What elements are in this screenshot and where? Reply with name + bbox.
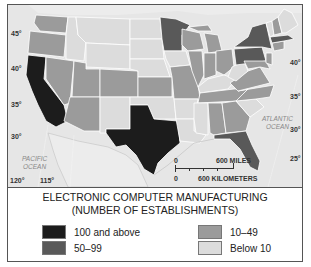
state-mt — [76, 17, 130, 45]
legend-item-100-plus: 100 and above — [42, 224, 140, 240]
scale-tick — [189, 168, 190, 171]
scale-bar-line — [175, 168, 234, 169]
legend-swatch — [42, 241, 66, 255]
legend-label: 100 and above — [74, 227, 140, 238]
lat-label-right-35: 35° — [290, 93, 301, 100]
lon-label-120: 120° — [10, 177, 24, 184]
legend-item-50-99: 50–99 — [42, 240, 102, 256]
legend-item-10-49: 10–49 — [198, 224, 258, 240]
scale-tick — [175, 165, 176, 172]
legend-label: Below 10 — [230, 243, 271, 254]
map-figure: 45° 40° 35° 30° 40° 35° 30° 25° 120° 115… — [7, 4, 303, 262]
scale-km-zero: 0 — [174, 175, 178, 182]
lon-label-115: 115° — [40, 177, 54, 184]
scale-tick — [203, 168, 204, 171]
state-nj — [266, 53, 272, 65]
us-choropleth-map: 45° 40° 35° 30° 40° 35° 30° 25° 120° 115… — [8, 5, 302, 188]
lat-label-40: 40° — [11, 65, 22, 72]
state-wy — [86, 43, 130, 69]
state-co — [100, 69, 138, 97]
legend-swatch — [198, 241, 222, 255]
state-wa — [34, 15, 68, 33]
legend-subtitle: (NUMBER OF ESTABLISHMENTS) — [8, 204, 302, 217]
legend-label: 50–99 — [74, 243, 102, 254]
lat-label-right-25: 25° — [290, 155, 301, 162]
scale-km-label: 600 KILOMETERS — [198, 175, 258, 182]
state-ks — [138, 77, 172, 97]
legend-label: 10–49 — [230, 227, 258, 238]
state-or — [28, 31, 66, 57]
state-ms — [194, 103, 208, 135]
scale-miles-zero: 0 — [174, 157, 178, 164]
scale-tick — [217, 168, 218, 171]
lat-label-35: 35° — [11, 101, 22, 108]
legend-title: ELECTRONIC COMPUTER MANUFACTURING — [8, 191, 302, 204]
lat-label-right-40: 40° — [290, 59, 301, 66]
state-nm — [100, 97, 130, 133]
atlantic-ocean-label: ATLANTIC OCEAN — [262, 115, 293, 131]
lat-label-45: 45° — [11, 30, 22, 37]
state-in — [204, 53, 216, 79]
legend-item-below-10: Below 10 — [198, 240, 271, 256]
state-sd — [130, 39, 164, 59]
pacific-ocean-label: PACIFIC OCEAN — [22, 155, 47, 171]
scale-tick — [233, 163, 234, 169]
legend-swatch — [198, 225, 222, 239]
lat-label-30: 30° — [11, 133, 22, 140]
legend-swatch — [42, 225, 66, 239]
state-nd — [130, 19, 162, 39]
